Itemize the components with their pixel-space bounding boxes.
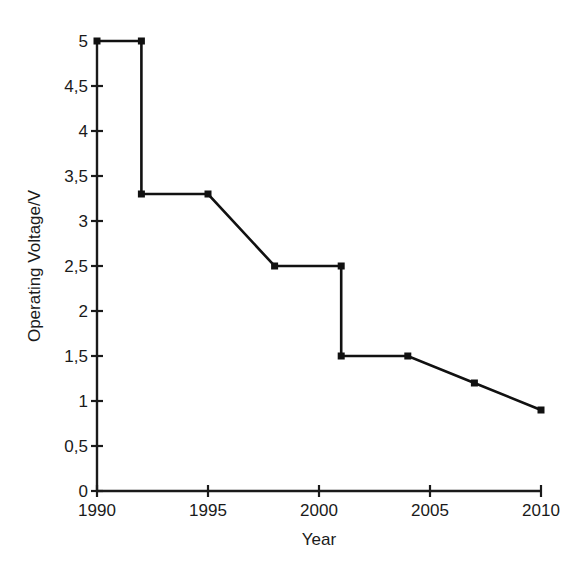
y-axis-tick-labels: 5 4,5 4 3,5 3 2,5 2 1,5 1 0,5 0: [64, 32, 88, 501]
y-tick-label: 5: [79, 32, 88, 51]
y-tick-label: 1: [79, 392, 88, 411]
data-point-marker: [538, 407, 545, 414]
y-tick-label: 4: [79, 122, 88, 141]
x-tick-label: 2010: [522, 501, 560, 520]
data-point-marker: [94, 38, 101, 45]
x-axis-tick-labels: 1990 1995 2000 2005 2010: [78, 501, 560, 520]
y-tick-label: 0,5: [64, 437, 88, 456]
x-tick-label: 2005: [411, 501, 449, 520]
x-tick-label: 2000: [300, 501, 338, 520]
data-point-marker: [271, 263, 278, 270]
y-tick-label: 0: [79, 482, 88, 501]
x-tick-label: 1990: [78, 501, 116, 520]
data-point-marker: [138, 191, 145, 198]
data-point-marker: [205, 191, 212, 198]
data-point-marker: [138, 38, 145, 45]
voltage-series-markers: [94, 38, 545, 414]
y-tick-label: 3,5: [64, 167, 88, 186]
y-tick-label: 1,5: [64, 347, 88, 366]
x-axis-title: Year: [302, 530, 337, 549]
y-tick-label: 4,5: [64, 77, 88, 96]
caption-fragment: [0, 557, 579, 571]
y-tick-label: 2: [79, 302, 88, 321]
voltage-series-line: [97, 41, 541, 410]
y-tick-label: 2,5: [64, 257, 88, 276]
data-point-marker: [338, 353, 345, 360]
x-tick-label: 1995: [189, 501, 227, 520]
y-axis-title: Operating Voltage/V: [25, 189, 44, 342]
data-point-marker: [338, 263, 345, 270]
data-point-marker: [404, 353, 411, 360]
y-tick-label: 3: [79, 212, 88, 231]
chart-figure: 5 4,5 4 3,5 3 2,5 2 1,5 1 0,5 0: [0, 0, 579, 571]
operating-voltage-line-chart: 5 4,5 4 3,5 3 2,5 2 1,5 1 0,5 0: [0, 0, 579, 571]
data-point-marker: [471, 380, 478, 387]
